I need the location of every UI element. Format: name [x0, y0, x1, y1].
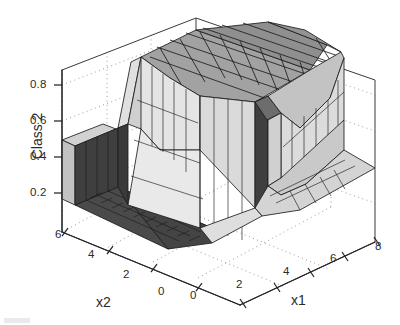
x1-tick-label-3: 6	[330, 252, 337, 264]
x2-tick-label-0: 6	[55, 228, 62, 240]
x1-axis-title: x1	[291, 292, 306, 308]
x2-axis-title: x2	[96, 294, 111, 310]
x1-tick-label-2: 4	[283, 265, 290, 277]
surface-plot-figure: .dot-grid{stroke:#9c9c9c;stroke-width:1;…	[0, 0, 400, 325]
x1-tick-label-1: 2	[236, 278, 243, 290]
x2-tick-label-1: 4	[88, 248, 95, 260]
right-wall-left-face	[268, 113, 281, 186]
scan-artifact	[4, 318, 30, 323]
x2-tick-label-2: 2	[123, 268, 130, 280]
x1-tick-label-0: 0	[190, 289, 197, 301]
x1-tick-label-4: 8	[375, 240, 382, 252]
left-shelf-face	[62, 140, 75, 205]
z-tick-label-3: 0.2	[30, 186, 47, 198]
z-axis-ticks	[54, 85, 62, 193]
x2-tick-label-3: 0	[158, 285, 165, 297]
plot-canvas: .dot-grid{stroke:#9c9c9c;stroke-width:1;…	[0, 0, 400, 325]
z-tick-label-0: 0.8	[30, 78, 47, 90]
z-axis-title: Class 2	[29, 91, 45, 181]
